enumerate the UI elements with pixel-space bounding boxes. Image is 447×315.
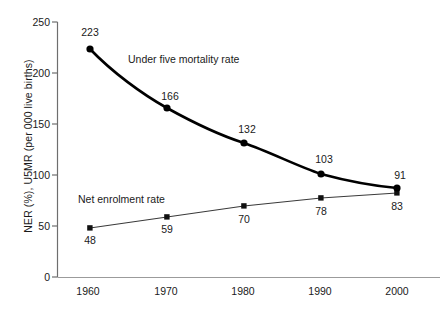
chart-figure: NER (%), U5MR (per 000 live births) 250 … (0, 0, 447, 315)
plot-area (0, 0, 447, 315)
series-line-ner (90, 193, 397, 228)
series-line-u5mr (90, 49, 397, 188)
marker-ner-1960 (87, 225, 92, 230)
marker-u5mr-1970 (163, 104, 170, 111)
marker-ner-1980 (241, 203, 246, 208)
marker-ner-1990 (318, 195, 323, 200)
marker-u5mr-1960 (86, 45, 93, 52)
marker-u5mr-1980 (240, 139, 247, 146)
series-markers-u5mr (86, 45, 400, 191)
marker-ner-1970 (164, 214, 169, 219)
marker-u5mr-1990 (317, 170, 324, 177)
marker-u5mr-2000 (393, 184, 400, 191)
y-axis-ticks (52, 22, 58, 277)
